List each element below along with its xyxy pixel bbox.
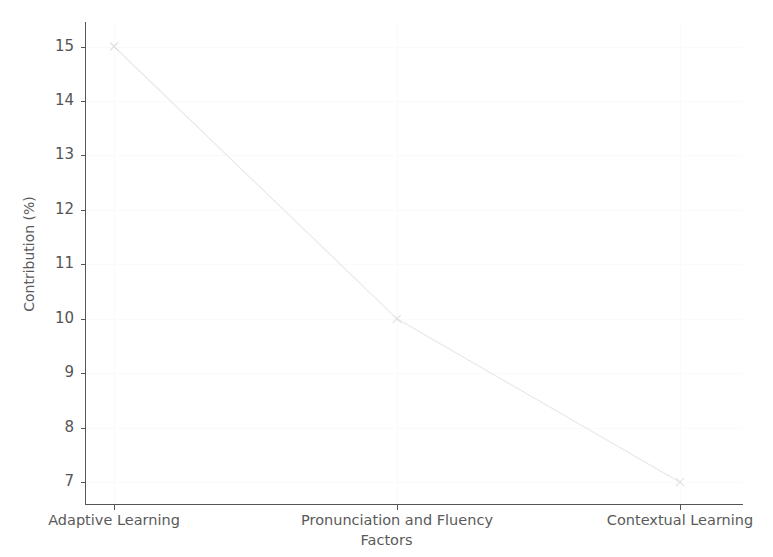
y-tick-mark	[81, 210, 86, 211]
gridline-horizontal	[85, 101, 743, 102]
gridline-horizontal	[85, 428, 743, 429]
y-tick-label: 8	[14, 420, 74, 435]
x-tick-label: Contextual Learning	[607, 512, 753, 528]
gridline-horizontal	[85, 210, 743, 211]
y-tick-mark	[81, 47, 86, 48]
gridline-horizontal	[85, 373, 743, 374]
gridline-vertical	[680, 22, 681, 505]
x-tick-mark	[397, 505, 398, 510]
x-tick-mark	[680, 505, 681, 510]
y-tick-label: 15	[14, 39, 74, 54]
x-tick-mark	[114, 505, 115, 510]
chart-figure: 789101112131415 Adaptive LearningPronunc…	[0, 0, 773, 557]
gridline-horizontal	[85, 155, 743, 156]
x-axis-spine	[85, 504, 743, 505]
x-tick-label: Pronunciation and Fluency	[301, 512, 493, 528]
y-tick-mark	[81, 428, 86, 429]
x-tick-label: Adaptive Learning	[48, 512, 180, 528]
y-tick-label: 7	[14, 474, 74, 489]
y-axis-label: Contribution (%)	[21, 114, 37, 394]
gridline-horizontal	[85, 319, 743, 320]
y-tick-label: 14	[14, 93, 74, 108]
y-tick-mark	[81, 155, 86, 156]
gridline-horizontal	[85, 47, 743, 48]
y-tick-mark	[81, 373, 86, 374]
gridline-horizontal	[85, 264, 743, 265]
gridline-vertical	[397, 22, 398, 505]
y-tick-mark	[81, 101, 86, 102]
y-tick-mark	[81, 319, 86, 320]
gridline-vertical	[114, 22, 115, 505]
gridline-horizontal	[85, 482, 743, 483]
plot-area	[85, 22, 743, 505]
x-axis-label: Factors	[0, 532, 773, 548]
y-tick-mark	[81, 264, 86, 265]
y-tick-mark	[81, 482, 86, 483]
